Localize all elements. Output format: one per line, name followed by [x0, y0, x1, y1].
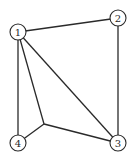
- edge-junction-3: [44, 124, 118, 143]
- node-2-label: 2: [115, 13, 121, 24]
- node-3-label: 3: [115, 138, 121, 149]
- node-1-label: 1: [15, 27, 21, 38]
- node-4-label: 4: [15, 138, 21, 149]
- edge-1-2: [18, 18, 118, 32]
- edges: [18, 18, 118, 143]
- node-1: 1: [10, 24, 26, 40]
- node-4: 4: [10, 135, 26, 151]
- node-3: 3: [110, 135, 126, 151]
- graph-diagram: 1 2 3 4: [0, 0, 135, 163]
- edge-1-3: [18, 32, 118, 143]
- node-2: 2: [110, 10, 126, 26]
